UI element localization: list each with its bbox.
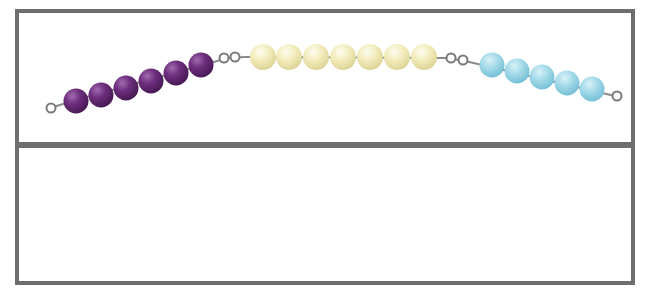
top-panel xyxy=(0,0,646,146)
yellow-bead-group xyxy=(250,44,437,70)
bead-string xyxy=(0,0,646,146)
blue-bead-group xyxy=(480,53,605,102)
bottom-panel xyxy=(19,148,631,277)
